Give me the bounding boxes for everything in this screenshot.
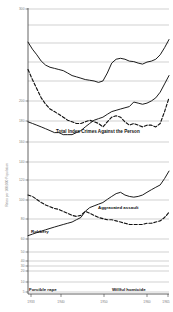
- annotation-willful-homicide: Willful homicide: [112, 287, 146, 292]
- annotation-total-index-crimes: Total Index Crimes Against the Person: [56, 129, 140, 134]
- ytick-5: 5: [23, 290, 25, 294]
- ytick-100: 100: [19, 198, 25, 202]
- xtick-1940: 1940: [57, 300, 65, 304]
- ytick-160: 160: [19, 140, 25, 144]
- y-axis-title: Rates per 100,000 Population: [5, 163, 9, 207]
- xtick-1960: 1960: [143, 300, 151, 304]
- chart-canvas: 300 200 180 160 140 120 100 80 60 50 40 …: [0, 0, 173, 312]
- x-tick-marks: [31, 294, 168, 297]
- crime-rate-chart: 300 200 180 160 140 120 100 80 60 50 40 …: [0, 0, 173, 312]
- xtick-1965: 1965: [162, 300, 170, 304]
- x-tick-labels: 1933 1940 1950 1960 1965: [27, 300, 170, 304]
- ytick-50: 50: [21, 250, 25, 254]
- ytick-300: 300: [19, 7, 25, 11]
- xtick-1950: 1950: [100, 300, 108, 304]
- ytick-40: 40: [21, 259, 25, 263]
- annotation-robbery: Robbery: [31, 229, 49, 234]
- ytick-20: 20: [21, 269, 25, 273]
- ytick-120: 120: [19, 178, 25, 182]
- ytick-10: 10: [21, 280, 25, 284]
- ytick-180: 180: [19, 119, 25, 123]
- annotation-forcible-rape: Forcible rape: [29, 287, 57, 292]
- ytick-60: 60: [21, 237, 25, 241]
- ytick-200: 200: [19, 99, 25, 103]
- ytick-80: 80: [21, 217, 25, 221]
- xtick-1933: 1933: [27, 300, 35, 304]
- ytick-140: 140: [19, 160, 25, 164]
- y-tick-labels: 300 200 180 160 140 120 100 80 60 50 40 …: [19, 7, 25, 294]
- ytick-30: 30: [21, 264, 25, 268]
- annotation-aggravated-assault: Aggravated assault: [98, 205, 139, 210]
- plot-background: [28, 8, 169, 294]
